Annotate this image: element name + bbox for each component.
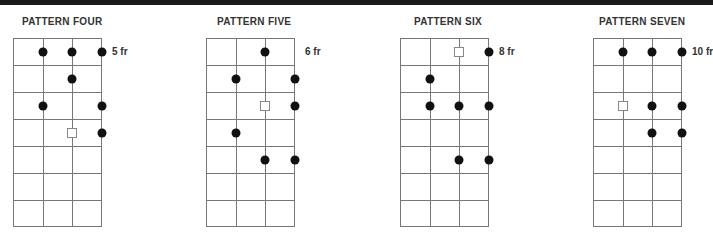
fret-line xyxy=(594,119,681,120)
fret-line xyxy=(594,146,681,147)
pattern-seven-diagram: PATTERN SEVEN 10 fr xyxy=(0,0,713,235)
note-dot-icon xyxy=(678,101,687,110)
note-dot-icon xyxy=(648,101,657,110)
note-dot-icon xyxy=(648,47,657,56)
note-dot-icon xyxy=(678,128,687,137)
fret-line xyxy=(594,65,681,66)
note-dot-icon xyxy=(648,128,657,137)
pattern-title: PATTERN SEVEN xyxy=(599,16,685,27)
fret-line xyxy=(594,92,681,93)
note-dot-icon xyxy=(618,47,627,56)
fret-line xyxy=(594,173,681,174)
fretboard-grid xyxy=(593,38,682,227)
fret-line xyxy=(594,200,681,201)
note-dot-icon xyxy=(678,47,687,56)
string-line xyxy=(623,39,624,226)
root-note-square-icon xyxy=(618,101,628,111)
fret-position-label: 10 fr xyxy=(692,46,713,57)
